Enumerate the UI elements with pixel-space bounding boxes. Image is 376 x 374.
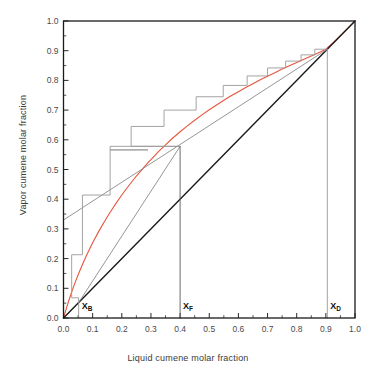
y-tick-label: 0.3 bbox=[34, 224, 59, 234]
y-tick-label: 0.7 bbox=[34, 105, 59, 115]
diagonal-45-line bbox=[64, 21, 356, 318]
x-tick-label: 0.6 bbox=[232, 324, 244, 334]
stage-staircase-group bbox=[72, 49, 328, 302]
y-tick-label: 0.9 bbox=[34, 46, 59, 56]
y-tick-label: 0.4 bbox=[34, 194, 59, 204]
marker-subscript: D bbox=[336, 305, 341, 312]
y-tick-label: 0.8 bbox=[34, 75, 59, 85]
x-tick-label: 0.7 bbox=[262, 324, 274, 334]
x-axis-title: Liquid cumene molar fraction bbox=[0, 353, 376, 363]
mccabe-thiele-figure: Liquid cumene molar fraction Vapor cumen… bbox=[0, 0, 376, 374]
x-tick-label: 0.4 bbox=[174, 324, 186, 334]
marker-label-xB: XB bbox=[82, 301, 93, 311]
x-tick-label: 0.5 bbox=[203, 324, 215, 334]
y-axis-title: Vapor cumene molar fraction bbox=[18, 40, 28, 270]
x-tick-label: 0.2 bbox=[116, 324, 128, 334]
x-tick-label: 0.1 bbox=[87, 324, 99, 334]
rectifying-operating-line bbox=[64, 49, 328, 220]
y-tick-label: 0.1 bbox=[34, 283, 59, 293]
y-tick-label: 0.0 bbox=[34, 313, 59, 323]
x-tick-label: 0.9 bbox=[320, 324, 332, 334]
x-tick-label: 0.8 bbox=[291, 324, 303, 334]
y-tick-label: 0.2 bbox=[34, 254, 59, 264]
x-tick-label: 0.0 bbox=[58, 324, 70, 334]
y-tick-label: 1.0 bbox=[34, 16, 59, 26]
marker-subscript: B bbox=[88, 305, 93, 312]
series-group bbox=[64, 21, 356, 318]
x-tick-label: 0.3 bbox=[145, 324, 157, 334]
marker-label-xD: XD bbox=[330, 301, 341, 311]
theoretical-stage-steps bbox=[72, 49, 328, 302]
marker-subscript: F bbox=[189, 305, 193, 312]
x-tick-label: 1.0 bbox=[349, 324, 361, 334]
marker-label-xF: XF bbox=[183, 301, 193, 311]
marker-symbol: X bbox=[82, 301, 88, 311]
y-tick-label: 0.5 bbox=[34, 165, 59, 175]
y-tick-label: 0.6 bbox=[34, 135, 59, 145]
stripping-operating-line bbox=[79, 146, 180, 302]
